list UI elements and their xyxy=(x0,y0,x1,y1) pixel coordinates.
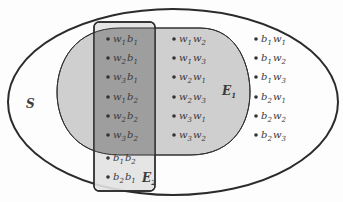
point-marker xyxy=(172,56,176,60)
point-marker xyxy=(254,114,258,118)
point-marker xyxy=(254,56,258,60)
point-marker xyxy=(254,37,258,41)
point-marker xyxy=(254,75,258,79)
point-marker xyxy=(172,37,176,41)
point-marker xyxy=(106,56,110,60)
set-label-s: S xyxy=(26,97,35,111)
point-marker xyxy=(106,37,110,41)
point-marker xyxy=(172,133,176,137)
point-marker xyxy=(106,75,110,79)
point-marker xyxy=(106,175,110,179)
point-marker xyxy=(106,133,110,137)
sample-space-diagram: S E1 E2 w1b1w2b1w3b1w1b2w2b2w3b2b1b2b2b1… xyxy=(0,0,343,202)
point-marker xyxy=(106,156,110,160)
point-marker xyxy=(106,95,110,99)
point-marker xyxy=(172,75,176,79)
point-marker xyxy=(172,95,176,99)
point-marker xyxy=(106,114,110,118)
point-marker xyxy=(254,95,258,99)
point-marker xyxy=(254,133,258,137)
point-marker xyxy=(172,114,176,118)
